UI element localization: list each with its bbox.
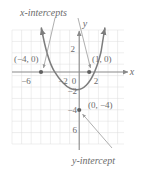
point-x-intercept-left [39,70,43,74]
point-y-intercept [77,108,81,112]
x-tick-label-2: 2 [94,76,99,86]
y-tick-label-2: 2 [71,44,76,54]
y-intercept-caption: y-intercept [71,155,115,166]
point-x-intercept-right [87,70,91,74]
parabola-intercepts-figure: −6 −2 0 2 2 −2 −4 6 x y (−4, 0) (1, 0) (… [0,0,143,172]
x-axis-label: x [129,66,135,77]
x-tick-label--6: −6 [21,76,31,86]
x-intercepts-caption: x-intercepts [19,7,67,18]
y-tick-label--4: −4 [67,105,77,115]
y-tick-label--2: −2 [67,86,77,96]
point-label-y-intercept: (0, −4) [88,100,113,110]
point-label-right: (1, 0) [92,54,112,64]
y-axis-label: y [82,18,88,29]
y-tick-label--6: 6 [73,125,78,135]
point-label-left: (−4, 0) [14,54,39,64]
x-tick-label-0: 0 [72,76,77,86]
x-tick-label--2: −2 [58,76,68,86]
